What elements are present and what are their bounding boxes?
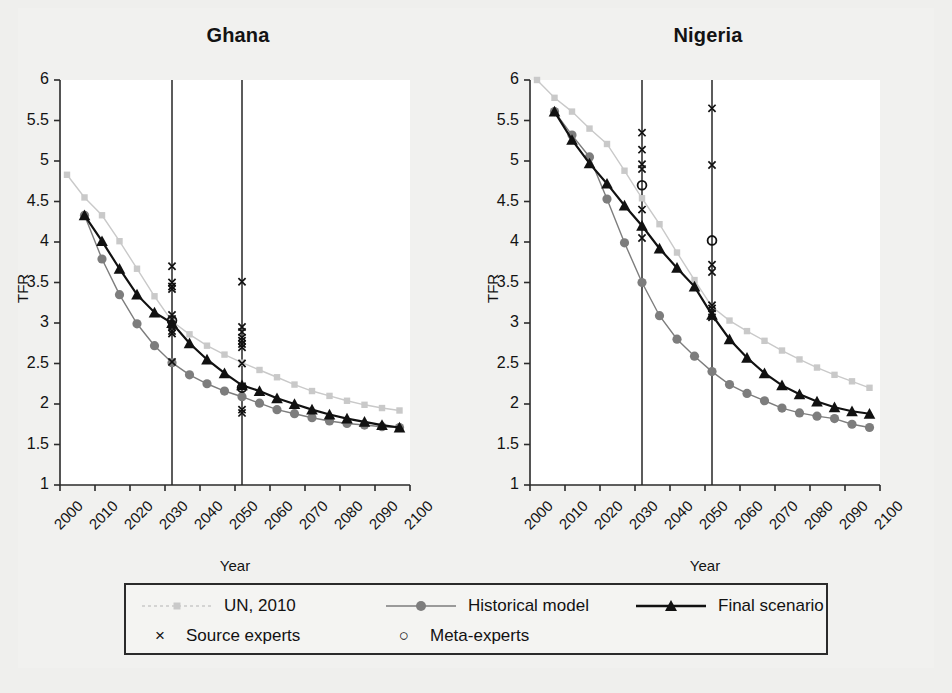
y-tick-label: 3	[8, 313, 49, 331]
y-tick-label: 4.5	[478, 192, 519, 210]
data-point	[656, 221, 662, 227]
y-tick-label: 5	[478, 151, 519, 169]
figure-root: Ghana 11.522.533.544.555.562000201020202…	[0, 0, 952, 693]
data-point	[690, 352, 699, 361]
data-point	[204, 342, 210, 348]
data-point	[97, 254, 106, 263]
y-tick-label: 2.5	[478, 354, 519, 372]
legend-label: Meta-experts	[430, 626, 529, 646]
data-point	[760, 396, 769, 405]
data-point	[361, 402, 367, 408]
data-point	[831, 372, 837, 378]
data-point	[620, 238, 629, 247]
data-point	[150, 341, 159, 350]
data-point	[725, 380, 734, 389]
legend-key-icon	[634, 595, 708, 617]
data-point	[115, 290, 124, 299]
legend-key-icon	[140, 595, 214, 617]
legend-label: Source experts	[186, 626, 300, 646]
data-point	[779, 347, 785, 353]
data-point	[742, 389, 751, 398]
data-point	[814, 364, 820, 370]
data-point	[551, 95, 557, 101]
data-point	[586, 125, 592, 131]
data-point	[812, 412, 821, 421]
data-point	[379, 405, 385, 411]
data-point	[655, 311, 664, 320]
data-point	[81, 194, 87, 200]
data-point	[344, 398, 350, 404]
y-tick-label: 1	[478, 475, 519, 493]
data-point	[637, 278, 646, 287]
chart-panel-ghana: Ghana 11.522.533.544.555.562000201020202…	[8, 24, 468, 584]
y-tick-label: 1	[8, 475, 49, 493]
y-tick-label: 2	[8, 394, 49, 412]
data-point	[707, 367, 716, 376]
x-axis-label: Year	[60, 557, 410, 574]
data-point	[534, 77, 540, 83]
y-tick-label: 2.5	[8, 354, 49, 372]
data-point	[795, 408, 804, 417]
data-point	[866, 385, 872, 391]
y-tick-label: 4	[478, 232, 519, 250]
data-point	[255, 399, 264, 408]
y-axis-label: TFR	[484, 273, 501, 302]
data-point	[291, 381, 297, 387]
y-tick-label: 6	[478, 70, 519, 88]
data-point	[761, 338, 767, 344]
legend-label: Historical model	[468, 596, 589, 616]
y-tick-label: 3	[478, 313, 519, 331]
legend-label: Final scenario	[718, 596, 824, 616]
legend-item-un-2010[interactable]: UN, 2010	[140, 591, 296, 621]
data-point	[220, 386, 229, 395]
data-point	[99, 212, 105, 218]
y-tick-label: 5.5	[478, 111, 519, 129]
x-marker-icon: ×	[140, 625, 180, 647]
data-point	[202, 379, 211, 388]
y-tick-label: 1.5	[8, 435, 49, 453]
plot-area-nigeria	[478, 54, 904, 495]
data-point	[796, 356, 802, 362]
y-tick-label: 4	[8, 232, 49, 250]
data-point	[116, 238, 122, 244]
x-axis-label: Year	[530, 557, 880, 574]
legend-item-final-scenario[interactable]: Final scenario	[634, 591, 824, 621]
y-tick-label: 4.5	[8, 192, 49, 210]
data-point	[777, 403, 786, 412]
legend-row-series: UN, 2010Historical modelFinal scenario	[126, 591, 826, 621]
data-point	[290, 409, 299, 418]
data-point	[132, 319, 141, 328]
panel-title-ghana: Ghana	[8, 24, 468, 47]
data-point	[726, 317, 732, 323]
legend-key-icon	[384, 595, 458, 617]
y-tick-label: 5.5	[8, 111, 49, 129]
y-tick-label: 5	[8, 151, 49, 169]
data-point	[272, 405, 281, 414]
legend-item-historical-model[interactable]: Historical model	[384, 591, 589, 621]
data-point	[847, 420, 856, 429]
legend-row-markers: ×Source experts○Meta-experts	[126, 621, 826, 651]
data-point	[256, 367, 262, 373]
chart-panel-nigeria: Nigeria 11.522.533.544.555.5620002010202…	[478, 24, 938, 584]
data-point	[274, 374, 280, 380]
y-axis-label: TFR	[14, 273, 31, 302]
data-point	[865, 423, 874, 432]
chart-legend: UN, 2010Historical modelFinal scenario ×…	[124, 583, 828, 655]
data-point	[309, 388, 315, 394]
legend-item-source-experts[interactable]: ×Source experts	[140, 621, 300, 651]
data-point	[602, 194, 611, 203]
y-tick-label: 6	[8, 70, 49, 88]
legend-label: UN, 2010	[224, 596, 296, 616]
data-point	[64, 172, 70, 178]
data-point	[221, 351, 227, 357]
data-point	[639, 195, 645, 201]
data-point	[744, 328, 750, 334]
data-point	[151, 293, 157, 299]
data-point	[326, 393, 332, 399]
legend-item-meta-experts[interactable]: ○Meta-experts	[384, 621, 529, 651]
data-point	[569, 108, 575, 114]
panel-title-nigeria: Nigeria	[478, 24, 938, 47]
data-point	[134, 266, 140, 272]
data-point	[621, 168, 627, 174]
data-point	[830, 414, 839, 423]
